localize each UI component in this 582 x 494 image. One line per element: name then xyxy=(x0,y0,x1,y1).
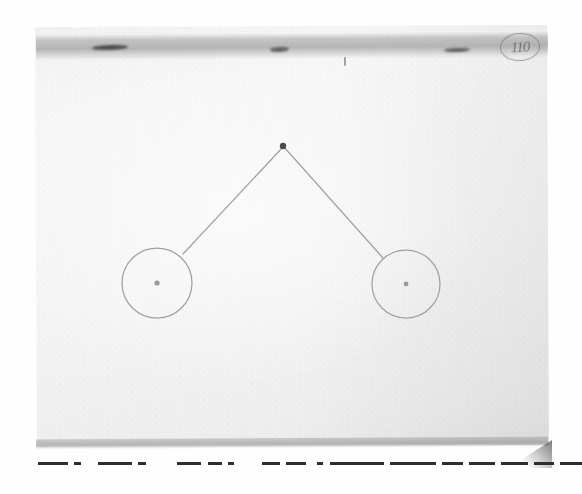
photo-canvas: 110 xyxy=(0,0,582,494)
dash-segment xyxy=(560,462,582,465)
dash-segment xyxy=(442,462,463,465)
dash-segment xyxy=(469,462,495,465)
dash-segment xyxy=(390,462,436,465)
paper-bottom-edge xyxy=(36,437,548,450)
dash-segment xyxy=(317,462,323,465)
dash-segment xyxy=(286,462,306,465)
dashed-rule xyxy=(0,456,582,472)
dash-segment xyxy=(208,462,222,465)
dash-segment xyxy=(177,462,201,465)
paper-grain-texture xyxy=(35,25,549,447)
dash-segment xyxy=(330,462,384,465)
lighting-vignette xyxy=(35,25,549,447)
dash-segment xyxy=(138,462,146,465)
dash-segment xyxy=(38,462,68,465)
dash-segment xyxy=(501,462,528,465)
smudge-tick-mark xyxy=(344,57,346,66)
dash-segment xyxy=(262,462,280,465)
dash-segment xyxy=(74,462,81,465)
dash-segment xyxy=(228,462,234,465)
paper-sheet xyxy=(35,25,549,447)
dash-segment xyxy=(534,462,554,465)
dash-segment xyxy=(98,462,132,465)
